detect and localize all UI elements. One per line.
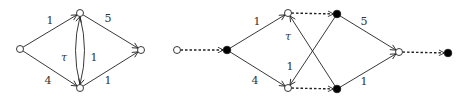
edge-label: 1 <box>254 15 261 28</box>
left-graph-edge-b-t <box>76 17 81 85</box>
right-graph-node-tb <box>333 10 341 18</box>
right-graph-node-t <box>285 10 292 17</box>
edge-label: 1 <box>91 51 98 64</box>
right-graph-edge-b-bb <box>291 88 333 89</box>
edge-label: 4 <box>252 74 259 87</box>
edge-label: 1 <box>105 74 112 87</box>
right-graph-node-k <box>396 49 403 56</box>
edge-label: 1 <box>47 14 54 27</box>
edge-label: 5 <box>105 12 112 25</box>
diagram-canvas: 14511τ14τ151 <box>0 0 466 99</box>
right-graph-node-c <box>223 46 231 54</box>
left-graph-edge-t-b <box>80 17 85 85</box>
edges-layer <box>23 13 445 89</box>
edge-label: 4 <box>45 74 52 87</box>
right-graph-node-a <box>174 47 181 54</box>
right-graph-node-b <box>285 85 292 92</box>
edge-label: τ <box>285 30 292 43</box>
edge-label: 5 <box>361 15 368 28</box>
left-graph-node-s <box>17 46 24 53</box>
left-graph-node-b <box>77 85 84 92</box>
edge-label: 1 <box>361 75 368 88</box>
edge-label: τ <box>61 51 68 64</box>
labels-layer: 14511τ14τ151 <box>45 12 368 88</box>
left-graph-node-t <box>77 10 84 17</box>
right-graph-edge-bb-k <box>340 54 396 87</box>
edge-label: 1 <box>287 60 294 73</box>
right-graph-edge-tb-k <box>340 16 396 50</box>
right-graph-edge-t-tb <box>291 13 333 14</box>
right-graph-edge-k-e <box>402 52 444 53</box>
left-graph-node-k <box>138 47 145 54</box>
right-graph-node-e <box>444 49 452 57</box>
right-graph-node-bb <box>333 85 341 93</box>
